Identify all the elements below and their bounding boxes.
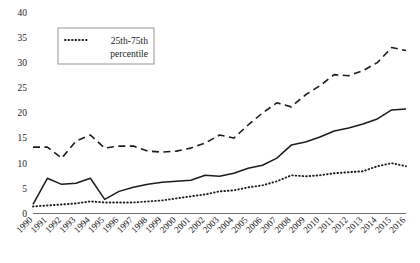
- legend-label-line2: percentile: [110, 48, 148, 59]
- series-line-median: [33, 109, 406, 205]
- y-axis-tick-label: 25: [18, 83, 28, 93]
- y-axis-tick-label: 5: [22, 184, 27, 194]
- legend-label-line1: 25th-75th: [111, 35, 149, 46]
- y-axis-tick-label: 15: [18, 133, 28, 143]
- x-axis-tick-label: 2016: [387, 215, 407, 235]
- y-axis-tick-label: 20: [18, 108, 28, 118]
- series-line-25th-percentile: [33, 163, 406, 206]
- chart-container: 0510152025303540199019911992199319941995…: [0, 0, 420, 263]
- line-chart: 0510152025303540199019911992199319941995…: [0, 0, 420, 263]
- y-axis-tick-label: 40: [18, 8, 28, 18]
- y-axis-tick-label: 35: [18, 33, 28, 43]
- y-axis-tick-label: 10: [18, 159, 28, 169]
- y-axis-tick-label: 30: [18, 58, 28, 68]
